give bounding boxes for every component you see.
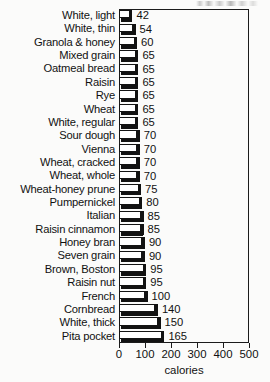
bar: 65: [119, 104, 140, 115]
bar-face: [119, 104, 136, 112]
category-label: Granola & honey: [34, 36, 115, 49]
bar-end-cap: [138, 184, 141, 195]
bar-end-cap: [145, 291, 148, 302]
bar-end-cap: [134, 37, 137, 48]
bar-end-cap: [142, 251, 145, 262]
bar: 90: [119, 251, 146, 262]
category-label: Pumpernickel: [50, 196, 115, 209]
bar-end-cap: [137, 144, 140, 155]
category-label: French: [81, 290, 115, 303]
category-label: Seven grain: [57, 249, 115, 262]
bar-value-label: 150: [165, 316, 184, 329]
bar-end-cap: [143, 264, 146, 275]
category-label: Sour dough: [59, 129, 115, 142]
bar-face: [119, 90, 136, 98]
bar: 70: [119, 130, 141, 141]
category-label: Wheat, whole: [50, 169, 115, 182]
category-label: Raisin cinnamon: [35, 223, 115, 236]
bar-value-label: 70: [144, 170, 156, 183]
bar-end-cap: [135, 77, 138, 88]
category-label: Brown, Boston: [45, 263, 115, 276]
bar-value-label: 65: [142, 49, 154, 62]
bar-value-label: 90: [149, 236, 161, 249]
bar-value-label: 95: [150, 263, 162, 276]
x-tick-label: 0: [116, 348, 122, 360]
x-tick-label: 300: [187, 348, 206, 360]
bar: 65: [119, 117, 140, 128]
bar-end-cap: [142, 237, 145, 248]
bar-value-label: 165: [168, 330, 187, 343]
category-label: Wheat, cracked: [40, 156, 115, 169]
bar-face: [119, 317, 158, 325]
bar-value-label: 90: [149, 250, 161, 263]
bar-face: [119, 291, 145, 299]
bar-value-label: 54: [140, 23, 152, 36]
bar-end-cap: [137, 157, 140, 168]
bar: 70: [119, 157, 141, 168]
bar-face: [119, 77, 136, 85]
bar-end-cap: [135, 50, 138, 61]
bar-face: [119, 264, 144, 272]
bar-face: [119, 37, 135, 45]
bar-face: [119, 171, 137, 179]
bar-face: [119, 24, 133, 32]
bar-face: [119, 224, 141, 232]
category-label: White, thick: [60, 316, 115, 329]
bar: 140: [119, 304, 159, 315]
category-label: Raisin: [85, 76, 115, 89]
bar-face: [119, 211, 141, 219]
bar-face: [119, 50, 136, 58]
bar: 100: [119, 291, 149, 302]
bar-end-cap: [135, 117, 138, 128]
category-label: Mixed grain: [59, 49, 115, 62]
bar: 65: [119, 64, 140, 75]
category-label: Pita pocket: [62, 330, 115, 343]
chart-row: White, light: [0, 9, 270, 22]
bar-value-label: 95: [150, 276, 162, 289]
bar-face: [119, 130, 137, 138]
bar: 95: [119, 264, 148, 275]
bar: 75: [119, 184, 143, 195]
bar-face: [119, 117, 136, 125]
bar-end-cap: [155, 304, 158, 315]
bar: 150: [119, 317, 162, 328]
bar-face: [119, 64, 136, 72]
bar-value-label: 65: [142, 76, 154, 89]
bread-calories-bar-chart: White, lightWhite, thinGranola & honeyMi…: [0, 0, 270, 382]
category-label: White, thin: [64, 22, 115, 35]
category-label: Wheat-honey prune: [20, 183, 115, 196]
bar-face: [119, 251, 142, 259]
category-label: Vienna: [82, 143, 115, 156]
bar-value-label: 65: [142, 63, 154, 76]
category-label: White, light: [62, 9, 115, 22]
x-tick-label: 500: [239, 348, 258, 360]
bar-end-cap: [141, 211, 144, 222]
bar: 65: [119, 50, 140, 61]
bar-face: [119, 304, 155, 312]
bar-value-label: 80: [146, 196, 158, 209]
bar-face: [119, 144, 137, 152]
x-axis: 0100200300400500 calories: [119, 343, 249, 381]
bar: 70: [119, 144, 141, 155]
x-tick-label: 100: [135, 348, 154, 360]
bar-value-label: 75: [145, 183, 157, 196]
category-label: Italian: [87, 209, 115, 222]
bar-value-label: 140: [162, 303, 181, 316]
bar: 65: [119, 77, 140, 88]
bar-end-cap: [133, 24, 136, 35]
bar-face: [119, 331, 162, 339]
bar-value-label: 70: [144, 129, 156, 142]
bar-end-cap: [139, 197, 142, 208]
bar: 85: [119, 211, 145, 222]
bar-face: [119, 157, 137, 165]
bar: 70: [119, 171, 141, 182]
bar-face: [119, 237, 142, 245]
bar-face: [119, 277, 144, 285]
bar-value-label: 65: [142, 103, 154, 116]
category-label: Honey bran: [59, 236, 115, 249]
bar-end-cap: [141, 224, 144, 235]
category-label: Rye: [96, 89, 115, 102]
bar: 85: [119, 224, 145, 235]
bar-value-label: 85: [148, 210, 160, 223]
bar-face: [119, 197, 140, 205]
